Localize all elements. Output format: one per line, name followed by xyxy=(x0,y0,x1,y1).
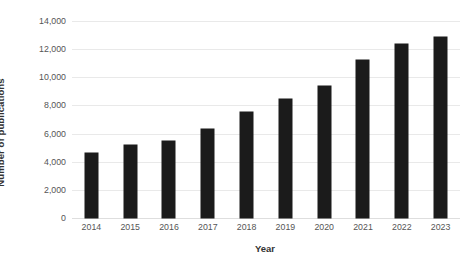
x-tick-label: 2020 xyxy=(305,222,344,232)
y-tick-label: 12,000 xyxy=(8,44,66,54)
bar-2015[interactable] xyxy=(124,145,137,218)
y-tick-label: 6,000 xyxy=(8,129,66,139)
bar-2016[interactable] xyxy=(162,141,175,218)
x-tick-label: 2016 xyxy=(150,222,189,232)
bar-column[interactable] xyxy=(188,21,227,218)
x-tick-label: 2014 xyxy=(72,222,111,232)
bar-2023[interactable] xyxy=(434,37,447,218)
bar-column[interactable] xyxy=(266,21,305,218)
y-axis-tick-labels: 02,0004,0006,0008,00010,00012,00014,000 xyxy=(0,21,66,218)
plot-area xyxy=(72,21,460,218)
bar-2020[interactable] xyxy=(318,86,331,218)
bar-2014[interactable] xyxy=(85,153,98,218)
bar-chart: Number of publications 02,0004,0006,0008… xyxy=(0,0,465,265)
y-tick-label: 0 xyxy=(8,213,66,223)
x-tick-label: 2015 xyxy=(111,222,150,232)
x-tick-label: 2021 xyxy=(344,222,383,232)
bar-column[interactable] xyxy=(305,21,344,218)
x-axis-tick-labels: 2014201520162017201820192020202120222023 xyxy=(72,222,460,238)
bar-column[interactable] xyxy=(111,21,150,218)
x-tick-label: 2019 xyxy=(266,222,305,232)
bar-column[interactable] xyxy=(227,21,266,218)
x-tick-label: 2017 xyxy=(188,222,227,232)
bar-2019[interactable] xyxy=(279,99,292,218)
bar-2022[interactable] xyxy=(395,44,408,218)
y-tick-label: 8,000 xyxy=(8,100,66,110)
bar-column[interactable] xyxy=(382,21,421,218)
y-tick-label: 14,000 xyxy=(8,16,66,26)
x-tick-label: 2018 xyxy=(227,222,266,232)
bar-column[interactable] xyxy=(150,21,189,218)
y-tick-label: 4,000 xyxy=(8,157,66,167)
x-tick-label: 2022 xyxy=(382,222,421,232)
bar-2021[interactable] xyxy=(356,60,369,218)
bar-2018[interactable] xyxy=(240,112,253,218)
bar-2017[interactable] xyxy=(201,129,214,218)
bar-column[interactable] xyxy=(421,21,460,218)
x-tick-label: 2023 xyxy=(421,222,460,232)
gridline-0 xyxy=(72,218,460,219)
y-tick-label: 2,000 xyxy=(8,185,66,195)
bar-column[interactable] xyxy=(344,21,383,218)
bar-column[interactable] xyxy=(72,21,111,218)
x-axis-title: Year xyxy=(70,243,460,254)
y-tick-label: 10,000 xyxy=(8,72,66,82)
